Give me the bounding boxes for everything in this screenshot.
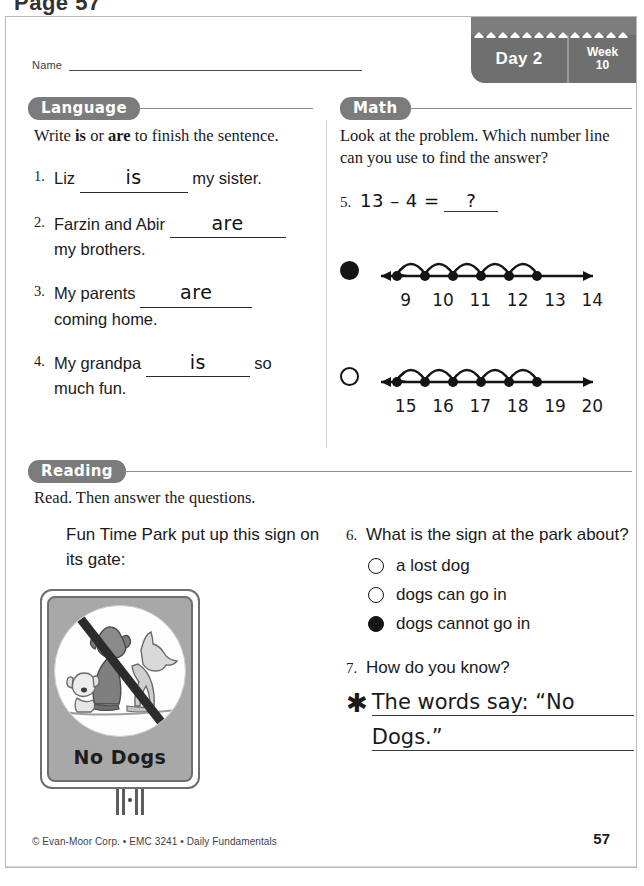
worksheet-page: Day 2 Week 10 Name Language Math Write i…: [5, 16, 637, 868]
page-number: 57: [593, 830, 610, 847]
badge-body: Day 2 Week 10: [471, 35, 636, 83]
column-divider: [326, 121, 327, 447]
day-week-badge: Day 2 Week 10: [471, 17, 636, 83]
numberline-tick-label: 16: [424, 396, 461, 416]
numberline-option-2[interactable]: 15 16 17 18 19 20: [340, 338, 625, 416]
item-after-text: coming home.: [54, 310, 158, 328]
radio-choice-6-b[interactable]: [368, 587, 384, 603]
no-dogs-sign-illustration: No Dogs: [40, 589, 220, 815]
radio-choice-6-a[interactable]: [368, 558, 384, 574]
item-after-text: my brothers.: [54, 240, 146, 258]
math-problem-5: 5. 13 – 4 = ?: [340, 190, 625, 212]
section-rule-math: [409, 108, 633, 109]
reading-columns: Fun Time Park put up this sign on its ga…: [34, 523, 634, 814]
answer-line-1[interactable]: The words say: “No: [372, 690, 634, 716]
question-7: 7. How do you know?: [346, 656, 634, 680]
item-after-text: my sister.: [192, 169, 262, 187]
item-before-text: My grandpa: [54, 354, 141, 372]
question-7-text: How do you know?: [366, 656, 634, 680]
name-input-rule[interactable]: [69, 59, 362, 71]
numberline-tick-label: 11: [462, 290, 499, 310]
item-before-text: Farzin and Abir: [54, 215, 165, 233]
choice-6-b-label: dogs can go in: [396, 585, 507, 605]
numberline-tick-label: 10: [424, 290, 461, 310]
item-before-text: My parents: [54, 284, 136, 302]
answer-line-2[interactable]: Dogs.”: [372, 725, 634, 751]
item-number: 5.: [340, 192, 360, 211]
sign-inner-panel: No Dogs: [47, 596, 193, 782]
language-column: Write is or are to finish the sentence. …: [34, 125, 314, 401]
badge-week-label: Week 10: [569, 35, 636, 83]
language-item-3: 3. My parents are coming home.: [34, 279, 314, 331]
footer-rule: [6, 866, 636, 867]
reading-section: Read. Then answer the questions. Fun Tim…: [34, 487, 634, 815]
numberline-graphic-2: 15 16 17 18 19 20: [371, 338, 625, 416]
post-leg: [122, 789, 125, 815]
name-label: Name: [32, 59, 62, 71]
numberline-option-1[interactable]: 9 10 11 12 13 14: [340, 232, 625, 310]
post-leg: [116, 789, 119, 815]
item-number: 1.: [34, 164, 54, 193]
language-item-4: 4. My grandpa is so much fun.: [34, 349, 314, 401]
numberline-labels-1: 9 10 11 12 13 14: [371, 290, 625, 310]
math-column: Look at the problem. Which number line c…: [340, 125, 625, 416]
section-rule-reading: [124, 471, 632, 472]
diamond-pattern-icon: [471, 28, 636, 38]
section-pill-reading: Reading: [28, 460, 126, 483]
question-6-text: What is the sign at the park about?: [366, 523, 634, 547]
reading-passage-column: Fun Time Park put up this sign on its ga…: [34, 523, 334, 814]
math-instruction: Look at the problem. Which number line c…: [340, 125, 625, 170]
sign-circle-area: [54, 605, 186, 737]
numberline-tick-label: 18: [499, 396, 536, 416]
math-equation: 13 – 4 = ?: [360, 190, 498, 212]
choice-6-a[interactable]: a lost dog: [368, 556, 634, 576]
post-bolt: [128, 798, 132, 802]
language-item-1: 1. Liz is my sister.: [34, 164, 314, 193]
answer-blank-4[interactable]: is: [146, 349, 250, 378]
post-leg: [141, 789, 144, 815]
question-6: 6. What is the sign at the park about?: [346, 523, 634, 547]
post-leg: [135, 789, 138, 815]
numberline-svg-1: [371, 232, 603, 284]
dog-light: [127, 632, 177, 712]
name-field-row[interactable]: Name: [32, 59, 362, 71]
numberline-tick-label: 13: [536, 290, 573, 310]
sign-outer-frame: No Dogs: [40, 589, 200, 789]
reading-instruction: Read. Then answer the questions.: [34, 487, 634, 509]
answer-text-block[interactable]: The words say: “No Dogs.”: [372, 690, 634, 760]
section-rule-language: [138, 108, 313, 109]
section-pill-language: Language: [28, 97, 140, 120]
badge-week-number: 10: [587, 59, 618, 72]
numberline-tick-label: 9: [387, 290, 424, 310]
language-instruction-word-are: are: [108, 126, 131, 145]
question-7-answer[interactable]: ✱ The words say: “No Dogs.”: [346, 690, 634, 760]
answer-blank-2[interactable]: are: [170, 210, 286, 239]
item-number: 6.: [346, 523, 366, 547]
language-instruction-mid: or: [86, 126, 108, 145]
sign-text-label: No Dogs: [74, 746, 167, 768]
reading-questions-column: 6. What is the sign at the park about? a…: [334, 523, 634, 814]
numberline-tick-label: 12: [499, 290, 536, 310]
radio-numberline-2[interactable]: [340, 367, 359, 386]
reading-passage: Fun Time Park put up this sign on its ga…: [66, 523, 334, 572]
radio-choice-6-c[interactable]: [368, 616, 384, 632]
section-pill-math: Math: [340, 97, 411, 120]
radio-numberline-1[interactable]: [340, 261, 359, 280]
item-number: 4.: [34, 349, 54, 401]
choice-6-b[interactable]: dogs can go in: [368, 585, 634, 605]
language-instruction-word-is: is: [75, 126, 86, 145]
item-text: Farzin and Abir are my brothers.: [54, 210, 314, 262]
math-equation-blank[interactable]: ?: [444, 190, 498, 212]
star-icon: ✱: [346, 690, 368, 760]
numberline-tick-label: 14: [574, 290, 611, 310]
choice-6-c[interactable]: dogs cannot go in: [368, 614, 634, 634]
language-instruction: Write is or are to finish the sentence.: [34, 125, 314, 147]
section-header-language: Language: [28, 97, 313, 120]
language-instruction-post: to finish the sentence.: [131, 126, 279, 145]
numberline-tick-label: 15: [387, 396, 424, 416]
language-item-2: 2. Farzin and Abir are my brothers.: [34, 210, 314, 262]
answer-blank-3[interactable]: are: [140, 279, 252, 308]
numberline-labels-2: 15 16 17 18 19 20: [371, 396, 625, 416]
answer-blank-1[interactable]: is: [80, 164, 188, 193]
page-footer: © Evan-Moor Corp. • EMC 3241 • Daily Fun…: [32, 830, 610, 847]
